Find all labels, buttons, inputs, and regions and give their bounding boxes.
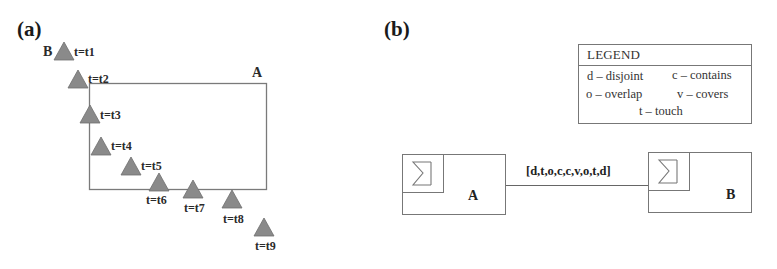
panel-b-label: (b) bbox=[384, 17, 410, 42]
legend-item-covers: v – covers bbox=[677, 87, 728, 102]
object-b-label: B bbox=[43, 44, 52, 60]
legend-item-overlap: o – overlap bbox=[586, 87, 642, 102]
entity-name-a: A bbox=[468, 188, 478, 204]
entity-box-a: A bbox=[402, 154, 506, 215]
position-label-t1: t=t1 bbox=[74, 45, 95, 60]
entity-box-b: B bbox=[648, 152, 752, 213]
triangle-icon bbox=[80, 105, 100, 123]
triangle-icon bbox=[121, 157, 141, 175]
region-a-rect bbox=[90, 84, 267, 190]
sigma-icon bbox=[649, 153, 689, 190]
legend-item-disjoint: d – disjoint bbox=[587, 69, 643, 84]
position-label-t9: t=t9 bbox=[255, 239, 276, 254]
triangle-icon bbox=[254, 218, 274, 236]
sigma-icon bbox=[403, 155, 443, 192]
triangle-icon bbox=[68, 70, 88, 88]
position-label-t3: t=t3 bbox=[100, 108, 121, 123]
triangle-icon bbox=[222, 190, 242, 208]
position-label-t4: t=t4 bbox=[111, 139, 132, 154]
triangle-icon bbox=[91, 137, 111, 155]
legend-item-touch: t – touch bbox=[639, 104, 683, 119]
position-label-t6: t=t6 bbox=[146, 193, 167, 208]
entity-name-b: B bbox=[726, 187, 735, 203]
legend-item-contains: c – contains bbox=[672, 68, 732, 83]
legend-divider bbox=[579, 65, 751, 66]
figure: (a) A B t=t1 t=t2 t=t3 t=t4 t=t5 t=t6 t=… bbox=[0, 0, 777, 269]
triangle-icon bbox=[54, 42, 74, 60]
region-a-label: A bbox=[252, 65, 262, 81]
position-label-t2: t=t2 bbox=[88, 72, 109, 87]
legend-box: LEGEND d – disjoint c – contains o – ove… bbox=[578, 44, 752, 124]
position-label-t8: t=t8 bbox=[223, 212, 244, 227]
legend-title: LEGEND bbox=[587, 47, 640, 63]
position-label-t7: t=t7 bbox=[184, 201, 205, 216]
position-label-t5: t=t5 bbox=[141, 159, 162, 174]
entity-icon-frame bbox=[648, 152, 690, 191]
entity-icon-frame bbox=[402, 154, 444, 193]
relation-label: [d,t,o,c,c,v,o,t,d] bbox=[526, 164, 611, 179]
triangle-icon bbox=[149, 173, 169, 191]
